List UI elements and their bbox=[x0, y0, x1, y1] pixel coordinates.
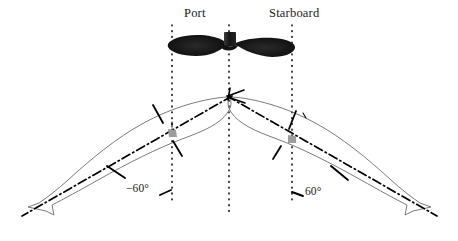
propeller-blade-port-shape bbox=[168, 35, 225, 56]
propeller-blade-starboard-shape bbox=[234, 38, 295, 57]
starboard-section-marker bbox=[288, 135, 296, 143]
angle-marker-ticks bbox=[160, 190, 303, 196]
starboard-blade-section-ticks bbox=[273, 111, 348, 180]
port-blade-centerline-group bbox=[22, 96, 232, 216]
port-blade-centerline bbox=[22, 96, 232, 216]
section-markers bbox=[168, 129, 296, 143]
port-label: Port bbox=[184, 6, 206, 21]
starboard-section-tick-outer bbox=[289, 111, 296, 129]
starboard-blade-centerline-group bbox=[227, 96, 437, 216]
port-section-tick-lower bbox=[107, 166, 125, 178]
port-section-tick-inner bbox=[173, 141, 182, 156]
root-tick-upper-right bbox=[228, 90, 244, 96]
starboard-angle-label: 60° bbox=[305, 185, 321, 197]
propeller-hub bbox=[224, 32, 236, 46]
starboard-label: Starboard bbox=[269, 6, 319, 21]
propeller-photo bbox=[168, 32, 295, 57]
propeller-angle-diagram: Port Starboard −60° 60° bbox=[0, 0, 458, 241]
starboard-blade-centerline bbox=[227, 96, 437, 216]
angle-right-tick bbox=[292, 192, 303, 196]
starboard-section-tick-inner bbox=[273, 146, 281, 159]
diagram-canvas bbox=[0, 0, 458, 241]
port-angle-label: −60° bbox=[126, 182, 149, 194]
port-section-marker bbox=[168, 129, 177, 137]
port-blade-section-ticks bbox=[107, 105, 182, 178]
angle-left-tick bbox=[160, 190, 171, 195]
